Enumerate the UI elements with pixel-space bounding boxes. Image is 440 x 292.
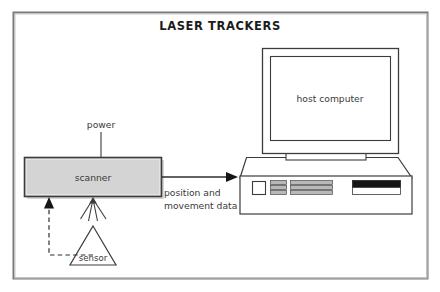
page-title: LASER TRACKERS bbox=[159, 19, 281, 33]
data-label-line1: position and bbox=[164, 187, 221, 198]
laser-trackers-diagram: LASER TRACKERS power scanner sensor bbox=[0, 0, 440, 292]
sensor-node: sensor bbox=[70, 226, 116, 265]
host-computer-label: host computer bbox=[296, 93, 363, 104]
scanner-node: scanner bbox=[25, 158, 165, 200]
front-panel-button bbox=[253, 182, 266, 195]
scanner-label: scanner bbox=[75, 172, 112, 183]
host-computer-node: host computer bbox=[240, 49, 412, 215]
laser-beams bbox=[81, 197, 107, 221]
front-panel-drive-bay bbox=[353, 181, 401, 195]
power-label: power bbox=[87, 119, 116, 130]
front-panel-slots-wide bbox=[291, 181, 333, 195]
front-panel-slots-small bbox=[271, 181, 287, 195]
data-connection bbox=[162, 172, 238, 182]
data-label-line2: movement data bbox=[164, 200, 237, 211]
